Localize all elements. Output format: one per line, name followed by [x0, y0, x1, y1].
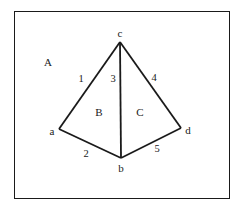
edge-label-4: 4 [151, 73, 156, 84]
edge-label-2: 2 [83, 149, 88, 160]
vertex-label-a: a [50, 126, 55, 137]
edge-3 [120, 42, 121, 158]
edge-2 [59, 129, 121, 158]
graph-diagram: a b c d 1 2 3 4 5 A B C [0, 0, 242, 210]
region-label-A: A [44, 57, 52, 68]
edge-label-3: 3 [110, 74, 115, 85]
edge-1 [59, 42, 120, 129]
edge-5 [121, 128, 181, 158]
vertex-label-d: d [185, 125, 191, 136]
vertex-label-c: c [118, 28, 123, 39]
edge-label-5: 5 [154, 144, 159, 155]
edge-4 [120, 42, 181, 128]
edge-label-1: 1 [78, 74, 83, 85]
region-label-C: C [136, 107, 143, 118]
vertex-label-b: b [118, 163, 124, 174]
region-label-B: B [95, 107, 102, 118]
